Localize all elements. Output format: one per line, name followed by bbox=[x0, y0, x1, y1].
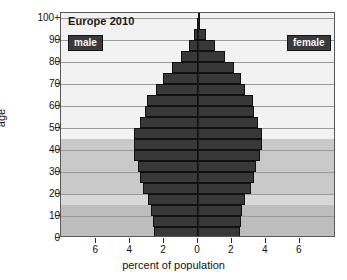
bar-female-25-29 bbox=[198, 172, 254, 183]
x-tick-mark bbox=[197, 238, 198, 243]
chart-canvas: Europe 2010 male female 0102030405060708… bbox=[0, 0, 347, 280]
legend-female: female bbox=[287, 35, 331, 51]
bar-male-50-54 bbox=[140, 117, 198, 128]
bar-male-35-39 bbox=[134, 150, 198, 161]
bar-female-60-64 bbox=[198, 95, 253, 106]
bar-female-70-74 bbox=[198, 73, 241, 84]
bar-female-85-89 bbox=[198, 40, 215, 51]
x-tick-label-0: 6 bbox=[93, 244, 99, 255]
y-tick-mark bbox=[55, 61, 60, 62]
y-axis-label: age bbox=[0, 109, 7, 127]
x-tick-label-1: 4 bbox=[126, 244, 132, 255]
bar-male-20-24 bbox=[143, 183, 198, 194]
bar-male-30-34 bbox=[138, 161, 198, 172]
y-tick-mark bbox=[55, 193, 60, 194]
y-tick-mark bbox=[55, 39, 60, 40]
bar-male-80-84 bbox=[181, 51, 198, 62]
y-tick-mark bbox=[55, 105, 60, 106]
chart-title: Europe 2010 bbox=[68, 15, 135, 27]
bar-male-5-9 bbox=[153, 216, 198, 227]
x-tick-label-6: 6 bbox=[296, 244, 302, 255]
legend-male: male bbox=[68, 35, 103, 51]
bar-female-80-84 bbox=[198, 51, 225, 62]
bar-male-25-29 bbox=[140, 172, 198, 183]
bar-male-10-14 bbox=[151, 205, 198, 216]
zero-axis-line bbox=[198, 13, 199, 236]
x-tick-mark bbox=[299, 238, 300, 243]
bar-female-10-14 bbox=[198, 205, 242, 216]
bar-female-40-44 bbox=[198, 139, 262, 150]
x-tick-mark bbox=[95, 238, 96, 243]
x-tick-label-2: 2 bbox=[160, 244, 166, 255]
x-tick-label-4: 2 bbox=[228, 244, 234, 255]
y-tick-mark bbox=[55, 17, 60, 18]
bar-male-85-89 bbox=[189, 40, 198, 51]
y-tick-mark bbox=[55, 171, 60, 172]
y-tick-mark bbox=[55, 127, 60, 128]
y-tick-mark bbox=[55, 149, 60, 150]
x-tick-mark bbox=[265, 238, 266, 243]
y-tick-mark bbox=[55, 215, 60, 216]
x-tick-label-3: 0 bbox=[194, 244, 200, 255]
bar-male-15-19 bbox=[148, 194, 198, 205]
bar-male-0-4 bbox=[154, 227, 198, 237]
bar-female-90-94 bbox=[198, 29, 206, 40]
bar-female-15-19 bbox=[198, 194, 245, 205]
bar-female-50-54 bbox=[198, 117, 258, 128]
bar-male-60-64 bbox=[147, 95, 198, 106]
bar-female-0-4 bbox=[198, 227, 240, 237]
bar-female-20-24 bbox=[198, 183, 251, 194]
x-tick-mark bbox=[163, 238, 164, 243]
bar-male-70-74 bbox=[163, 73, 198, 84]
bar-male-40-44 bbox=[134, 139, 198, 150]
bar-male-65-69 bbox=[156, 84, 198, 95]
bar-male-75-79 bbox=[172, 62, 198, 73]
bar-female-65-69 bbox=[198, 84, 245, 95]
bar-female-5-9 bbox=[198, 216, 241, 227]
bar-male-45-49 bbox=[134, 128, 198, 139]
x-tick-label-5: 4 bbox=[262, 244, 268, 255]
bar-female-35-39 bbox=[198, 150, 260, 161]
x-tick-mark bbox=[231, 238, 232, 243]
bar-female-45-49 bbox=[198, 128, 262, 139]
bar-female-75-79 bbox=[198, 62, 234, 73]
bar-male-55-59 bbox=[145, 106, 198, 117]
y-tick-mark bbox=[55, 237, 60, 238]
x-tick-mark bbox=[129, 238, 130, 243]
x-axis-label: percent of population bbox=[0, 259, 347, 271]
y-tick-mark bbox=[55, 83, 60, 84]
bar-female-55-59 bbox=[198, 106, 254, 117]
bar-female-30-34 bbox=[198, 161, 256, 172]
